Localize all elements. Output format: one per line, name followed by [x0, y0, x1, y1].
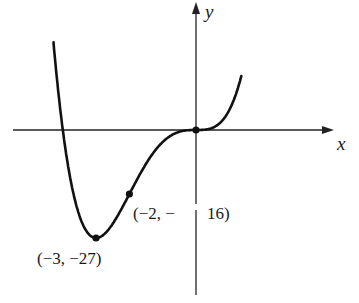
- x-axis-label: x: [336, 133, 346, 154]
- label-gap: [194, 204, 198, 210]
- graph-canvas: y x (−3, −27) (−2, − 16): [0, 0, 359, 303]
- inflection-point-label-left: (−2, −: [133, 204, 175, 223]
- min-point-label: (−3, −27): [37, 249, 102, 268]
- y-axis-arrow-icon: [192, 2, 200, 14]
- min-point-marker: [92, 234, 99, 241]
- origin-point-marker: [192, 126, 199, 133]
- inflection-point-label-right: 16): [207, 204, 230, 223]
- x-axis-arrow-icon: [322, 126, 334, 134]
- y-axis-label: y: [203, 1, 214, 22]
- inflection-point-marker: [126, 190, 133, 197]
